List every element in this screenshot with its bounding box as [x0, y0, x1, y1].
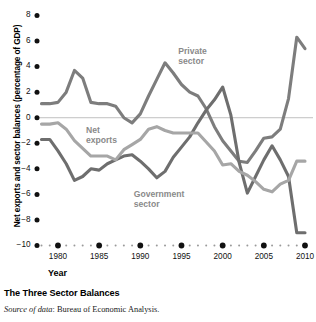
x-tick-dot-minor	[230, 245, 232, 247]
x-tick-dot-minor	[246, 245, 248, 247]
x-tick-dot-minor	[238, 245, 240, 247]
x-tick-dot-minor	[296, 245, 298, 247]
y-tick-dot	[35, 166, 40, 171]
x-tick-dot-minor	[148, 245, 150, 247]
x-tick-dot-minor	[197, 245, 199, 247]
y-tick-dot	[35, 192, 40, 197]
series-label-private-sector: Private sector	[178, 46, 207, 66]
series-line-government-sector	[42, 87, 306, 233]
y-tick-label: −4	[9, 164, 31, 173]
x-tick-dot-minor	[279, 245, 281, 247]
series-label-net-exports: Net exports	[86, 125, 117, 145]
x-tick-dot-minor	[288, 245, 290, 247]
x-tick-dot-minor	[271, 245, 273, 247]
line-chart-svg	[0, 0, 316, 262]
x-tick-dot-minor	[123, 245, 125, 247]
y-tick-dot	[35, 64, 40, 69]
y-tick-label: 2	[9, 87, 31, 96]
y-tick-label: 6	[9, 36, 31, 45]
x-tick-dot-minor	[156, 245, 158, 247]
x-tick-dot-major	[137, 243, 143, 249]
x-tick-dot-minor	[65, 245, 67, 247]
figure-caption-title: The Three Sector Balances	[4, 288, 119, 298]
x-tick-dot-minor	[106, 245, 108, 247]
x-tick-dot-major	[179, 243, 185, 249]
x-tick-label: 2005	[246, 252, 282, 261]
x-tick-dot-minor	[82, 245, 84, 247]
y-tick-label: −8	[9, 215, 31, 224]
chart-plot-area: Net exports and sector balances (percent…	[0, 0, 316, 262]
x-tick-label: 2010	[287, 252, 316, 261]
x-tick-dot-minor	[205, 245, 207, 247]
x-tick-dot-minor	[164, 245, 166, 247]
series-line-private-sector	[42, 37, 306, 162]
x-tick-dot-major	[220, 243, 226, 249]
x-tick-dot-minor	[131, 245, 133, 247]
x-tick-dot-major	[96, 243, 102, 249]
y-tick-dot	[35, 217, 40, 222]
x-tick-dot-minor	[90, 245, 92, 247]
y-tick-dot	[35, 141, 40, 146]
source-rest: : Bureau of Economic Analysis.	[53, 305, 160, 314]
y-tick-dot	[35, 90, 40, 95]
x-axis-tick-markers	[41, 243, 308, 249]
y-tick-label: 0	[9, 113, 31, 122]
x-tick-dot-minor	[41, 245, 43, 247]
y-tick-label: −2	[9, 138, 31, 147]
x-tick-label: 1990	[122, 252, 158, 261]
y-axis-tick-markers	[35, 13, 40, 248]
x-axis-title: Year	[48, 268, 67, 278]
series-label-government-sector: Government sector	[134, 189, 185, 209]
figure-caption-source: Source of data: Bureau of Economic Analy…	[4, 305, 159, 314]
y-tick-label: −6	[9, 189, 31, 198]
y-tick-dot	[35, 13, 40, 18]
x-tick-dot-minor	[189, 245, 191, 247]
x-tick-dot-minor	[73, 245, 75, 247]
x-tick-label: 1985	[81, 252, 117, 261]
x-tick-label: 1995	[163, 252, 199, 261]
y-tick-label: 8	[9, 10, 31, 19]
x-tick-label: 1980	[40, 252, 76, 261]
x-tick-dot-major	[55, 243, 61, 249]
y-tick-label: −10	[9, 240, 31, 249]
x-tick-dot-major	[302, 243, 308, 249]
x-tick-dot-minor	[213, 245, 215, 247]
y-tick-dot	[35, 39, 40, 44]
y-tick-dot	[35, 115, 40, 120]
x-tick-dot-minor	[255, 245, 257, 247]
y-tick-label: 4	[9, 61, 31, 70]
x-tick-dot-major	[261, 243, 267, 249]
x-tick-dot-minor	[172, 245, 174, 247]
source-prefix: Source of data	[4, 305, 53, 314]
x-tick-dot-minor	[49, 245, 51, 247]
x-tick-dot-minor	[115, 245, 117, 247]
three-sector-balances-figure: Net exports and sector balances (percent…	[0, 0, 316, 322]
x-tick-label: 2000	[205, 252, 241, 261]
y-tick-dot	[35, 243, 40, 248]
